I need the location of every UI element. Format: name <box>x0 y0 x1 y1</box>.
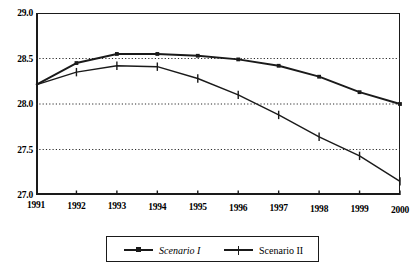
legend-marker-square-icon <box>124 244 153 256</box>
x-tick-label: 1993 <box>97 201 137 212</box>
legend-label-scenario-i: Scenario I <box>159 245 200 256</box>
legend: Scenario I Scenario II <box>106 236 319 262</box>
x-tick-label: 1997 <box>259 203 299 214</box>
legend-label-scenario-ii: Scenario II <box>259 245 303 256</box>
x-tick-label: 2000 <box>380 205 420 216</box>
x-tick-label: 1996 <box>218 203 258 214</box>
x-tick-label: 1998 <box>299 204 339 215</box>
x-tick-label: 1999 <box>340 204 380 215</box>
x-tick-label: 1995 <box>178 202 218 213</box>
legend-item-scenario-ii[interactable]: Scenario II <box>224 237 303 263</box>
line-chart: 29.028.528.027.527.0 1991199219931994199… <box>0 0 420 270</box>
legend-item-scenario-i[interactable]: Scenario I <box>124 237 200 263</box>
x-tick-label: 1992 <box>56 201 96 212</box>
x-axis-labels: 1991199219931994199519961997199819992000 <box>0 0 420 270</box>
legend-marker-plus-icon <box>224 244 253 256</box>
x-tick-label: 1991 <box>16 200 56 211</box>
x-tick-label: 1994 <box>137 202 177 213</box>
